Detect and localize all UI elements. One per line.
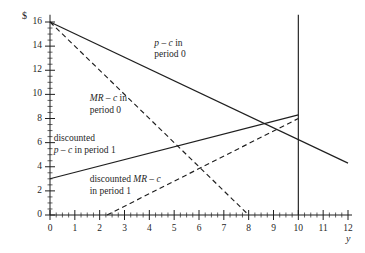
annotation-discounted-mrc-period1: discounted MR – c in period 1 — [90, 174, 161, 197]
y-tick-label: 12 — [18, 64, 42, 74]
annotation-discounted-mrc-period1-line1: discounted MR – c — [90, 174, 161, 186]
y-tick-label: 4 — [18, 161, 42, 171]
x-tick-label: 8 — [237, 223, 261, 233]
x-tick-label: 6 — [187, 223, 211, 233]
x-tick-label: 11 — [311, 223, 335, 233]
x-tick-label: 1 — [63, 223, 87, 233]
x-tick-label: 9 — [262, 223, 286, 233]
x-tick-label: 3 — [113, 223, 137, 233]
economics-line-chart: $ y 0246810121416 0123456789101112 p – c… — [0, 0, 365, 253]
x-tick-label: 0 — [38, 223, 62, 233]
annotation-mrc-period0-line1: MR – c in — [90, 93, 127, 105]
annotation-pc-period0-line2: period 0 — [154, 49, 185, 61]
x-axis-label: y — [346, 233, 350, 244]
y-tick-label: 14 — [18, 40, 42, 50]
annotation-discounted-pc-period1: discounted p – c in period 1 — [54, 133, 116, 156]
x-tick-label: 7 — [212, 223, 236, 233]
y-tick-label: 8 — [18, 113, 42, 123]
x-tick-label: 4 — [137, 223, 161, 233]
annotation-discounted-mrc-period1-line2: in period 1 — [90, 186, 161, 198]
series-line-3 — [107, 119, 298, 216]
y-tick-label: 6 — [18, 137, 42, 147]
y-tick-label: 16 — [18, 16, 42, 26]
x-tick-label: 10 — [286, 223, 310, 233]
annotation-mrc-period0-line2: period 0 — [90, 105, 127, 117]
annotation-discounted-pc-period1-line2: p – c in period 1 — [54, 145, 116, 157]
y-tick-label: 2 — [18, 185, 42, 195]
annotation-pc-period0-line1: p – c in — [154, 38, 185, 50]
x-tick-label: 5 — [162, 223, 186, 233]
x-tick-label: 2 — [88, 223, 112, 233]
annotation-discounted-pc-period1-line1: discounted — [54, 133, 116, 145]
annotation-pc-period0: p – c in period 0 — [154, 38, 185, 61]
annotation-mrc-period0: MR – c in period 0 — [90, 93, 127, 116]
y-tick-label: 0 — [18, 209, 42, 219]
x-tick-label: 12 — [336, 223, 360, 233]
y-tick-label: 10 — [18, 88, 42, 98]
